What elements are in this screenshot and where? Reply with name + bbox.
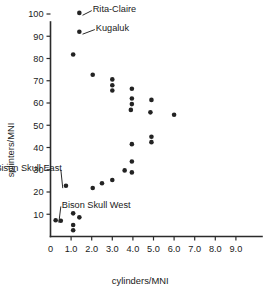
x-axis-tick-label: 7.0 xyxy=(188,244,201,254)
data-point xyxy=(130,102,135,107)
data-point xyxy=(110,178,115,183)
annotation-leader-line xyxy=(83,11,92,16)
data-point xyxy=(129,108,134,113)
data-point xyxy=(130,170,135,175)
data-point xyxy=(122,168,127,173)
x-axis-tick-label: 2.0 xyxy=(85,244,98,254)
x-axis-tick-label: 1.0 xyxy=(65,244,78,254)
data-point xyxy=(77,11,82,16)
data-point xyxy=(149,140,154,145)
data-point xyxy=(149,98,154,103)
annotation-label: Bison Skull East xyxy=(0,163,62,173)
data-point xyxy=(77,30,82,35)
annotation-label: Rita-Claire xyxy=(93,4,136,14)
data-point xyxy=(149,135,154,140)
y-axis-tick-label: 100 xyxy=(28,9,43,19)
annotation-label: Kugaluk xyxy=(96,23,130,33)
x-axis-tick-label: 0 xyxy=(48,244,53,254)
data-point xyxy=(130,86,135,91)
annotation-label: Bison Skull West xyxy=(62,200,131,210)
data-point xyxy=(53,218,58,223)
x-axis-tick-label: 5.0 xyxy=(147,244,160,254)
x-axis-tick-label: 6.0 xyxy=(168,244,181,254)
y-axis-tick-label: 40 xyxy=(33,143,43,153)
x-axis-title: cylinders/MNI xyxy=(112,275,169,286)
data-point xyxy=(110,83,115,88)
y-axis-tick-label: 10 xyxy=(33,210,43,220)
data-point xyxy=(172,112,177,117)
x-axis-tick-label: 3.0 xyxy=(106,244,119,254)
data-point xyxy=(71,223,76,228)
data-point xyxy=(64,183,69,188)
data-point xyxy=(130,96,135,101)
x-axis-tick-label: 8.0 xyxy=(209,244,222,254)
data-point xyxy=(90,72,95,77)
annotation-leader-line xyxy=(83,30,95,35)
y-axis-tick-label: 70 xyxy=(33,76,43,86)
scatter-chart-figure: 10203040506070809010001.02.03.04.05.06.0… xyxy=(0,0,278,290)
data-point xyxy=(71,52,76,57)
data-point xyxy=(110,88,115,93)
data-point xyxy=(110,77,115,82)
x-axis-tick-label: 4.0 xyxy=(127,244,140,254)
x-axis-tick-label: 9.0 xyxy=(230,244,243,254)
data-point xyxy=(148,110,153,115)
data-point xyxy=(71,211,76,216)
data-point xyxy=(71,228,76,233)
y-axis-tick-label: 90 xyxy=(33,32,43,42)
y-axis-tick-label: 60 xyxy=(33,98,43,108)
y-axis-tick-label: 20 xyxy=(33,187,43,197)
y-axis-tick-label: 80 xyxy=(33,54,43,64)
y-axis-tick-label: 50 xyxy=(33,121,43,131)
data-point xyxy=(77,215,82,220)
data-point xyxy=(100,181,105,186)
data-point xyxy=(90,186,95,191)
data-point xyxy=(130,142,135,147)
data-point xyxy=(130,159,135,164)
scatter-plot-svg: 10203040506070809010001.02.03.04.05.06.0… xyxy=(0,0,278,290)
